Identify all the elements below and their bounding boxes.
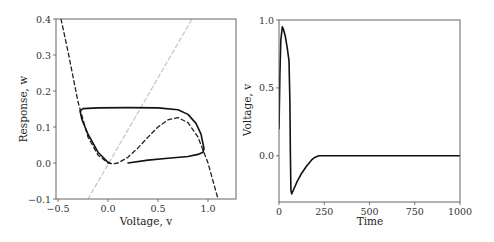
x-tick-label: 0.5 [150, 203, 165, 214]
phase-plane-y-ticks: −0.10.00.10.20.30.4 [28, 14, 56, 205]
x-tick-label: 1.0 [200, 203, 215, 214]
figure: −0.50.00.51.0 −0.10.00.10.20.30.4 Voltag… [0, 0, 494, 242]
phase-plane-x-ticks: −0.50.00.51.0 [46, 199, 215, 214]
y-tick-label: −0.1 [28, 194, 51, 205]
x-tick-label: −0.5 [46, 203, 69, 214]
time-series-series [279, 27, 460, 194]
time-series-frame [279, 20, 460, 202]
x-tick-label: 750 [406, 206, 424, 217]
y-tick-label: 0.1 [36, 122, 51, 133]
y-tick-label: 0.0 [259, 150, 274, 161]
y-tick-label: 0.0 [36, 158, 51, 169]
x-tick-label: 250 [315, 206, 333, 217]
x-tick-label: 0 [276, 206, 282, 217]
phase-plane-y-label: Response, w [17, 76, 29, 143]
y-tick-label: 0.2 [36, 86, 51, 97]
time-series-y-ticks: 0.00.51.0 [259, 15, 279, 162]
time-series-x-label: Time [357, 215, 384, 227]
phase-plane-series [61, 19, 218, 199]
x-tick-label: 0.0 [100, 203, 115, 214]
time-series-panel: 02505007501000 0.00.51.0 Time Voltage, v [241, 15, 472, 228]
y-tick-label: 0.4 [36, 14, 51, 25]
phase-plane-series-2 [80, 108, 204, 163]
time-series-series-0 [279, 27, 460, 194]
time-series-y-label: Voltage, v [241, 84, 253, 137]
phase-plane-x-label: Voltage, v [119, 215, 172, 227]
y-tick-label: 0.3 [36, 50, 51, 61]
x-tick-label: 1000 [448, 206, 472, 217]
y-tick-label: 1.0 [259, 15, 274, 26]
phase-plane-panel: −0.50.00.51.0 −0.10.00.10.20.30.4 Voltag… [17, 14, 236, 228]
y-tick-label: 0.5 [259, 82, 274, 93]
